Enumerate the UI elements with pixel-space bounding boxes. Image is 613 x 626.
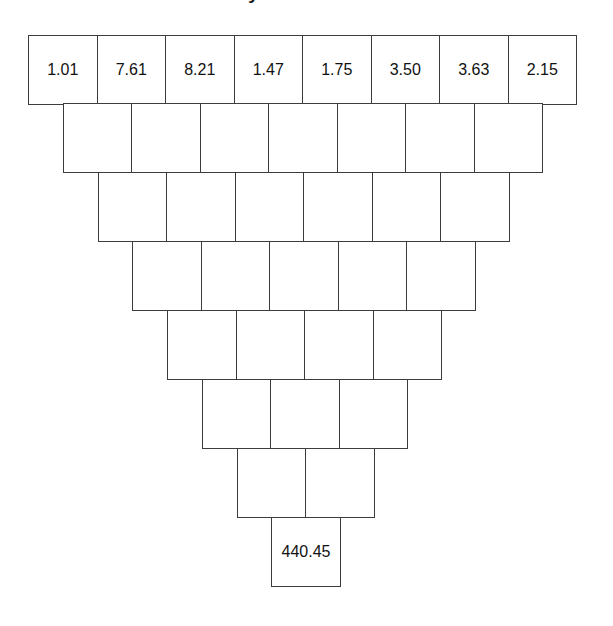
pyramid-cell-filled[interactable]: 440.45 [271,517,341,587]
pyramid-cell-filled[interactable]: 3.63 [439,35,509,105]
pyramid-cell-empty[interactable] [270,379,340,449]
pyramid-cell-empty[interactable] [372,172,442,242]
pyramid-cell-empty[interactable] [202,379,272,449]
pyramid-cell-empty[interactable] [405,103,475,173]
pyramid-row [237,448,376,518]
pyramid-cell-filled[interactable]: 2.15 [508,35,578,105]
pyramid-cell-empty[interactable] [235,172,305,242]
number-pyramid: 1.017.618.211.471.753.503.632.15440.45 [0,0,613,626]
pyramid-cell-empty[interactable] [167,310,237,380]
pyramid-cell-empty[interactable] [373,310,443,380]
pyramid-cell-filled[interactable]: 1.01 [28,35,98,105]
pyramid-cell-empty[interactable] [201,241,271,311]
pyramid-cell-empty[interactable] [474,103,544,173]
pyramid-cell-empty[interactable] [406,241,476,311]
pyramid-cell-filled[interactable]: 7.61 [97,35,167,105]
pyramid-cell-empty[interactable] [131,103,201,173]
pyramid-cell-empty[interactable] [303,172,373,242]
pyramid-cell-filled[interactable]: 1.47 [234,35,304,105]
pyramid-cell-empty[interactable] [98,172,168,242]
pyramid-row: 440.45 [271,517,341,587]
pyramid-row [98,172,515,242]
pyramid-cell-empty[interactable] [63,103,133,173]
pyramid-cell-empty[interactable] [269,241,339,311]
pyramid-row [63,103,550,173]
pyramid-cell-empty[interactable] [237,448,307,518]
pyramid-cell-empty[interactable] [339,379,409,449]
pyramid-cell-empty[interactable] [305,448,375,518]
pyramid-cell-empty[interactable] [200,103,270,173]
pyramid-row [132,241,480,311]
pyramid-row [167,310,445,380]
pyramid-cell-empty[interactable] [236,310,306,380]
pyramid-cell-empty[interactable] [337,103,407,173]
pyramid-cell-empty[interactable] [338,241,408,311]
pyramid-cell-filled[interactable]: 3.50 [371,35,441,105]
pyramid-cell-empty[interactable] [132,241,202,311]
pyramid-cell-empty[interactable] [166,172,236,242]
pyramid-row [202,379,411,449]
pyramid-cell-filled[interactable]: 1.75 [302,35,372,105]
pyramid-cell-empty[interactable] [440,172,510,242]
pyramid-cell-empty[interactable] [268,103,338,173]
pyramid-row: 1.017.618.211.471.753.503.632.15 [28,35,584,105]
pyramid-cell-empty[interactable] [304,310,374,380]
pyramid-cell-filled[interactable]: 8.21 [165,35,235,105]
